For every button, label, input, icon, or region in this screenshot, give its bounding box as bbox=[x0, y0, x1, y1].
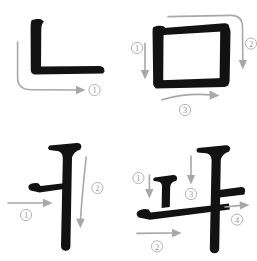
stroke-order-label: 4 bbox=[235, 215, 240, 225]
stroke-order-badge-3-wa: 3 bbox=[185, 188, 196, 199]
glyph-mieum bbox=[153, 23, 231, 88]
stroke-order-chart: Hangul stroke order chart 1 bbox=[0, 0, 257, 261]
stroke-arrow-2-wa bbox=[137, 229, 182, 237]
stroke-order-label: 1 bbox=[92, 85, 96, 95]
stroke-order-badge-1-wa: 1 bbox=[133, 172, 144, 183]
stroke-diagram-wa: 1 2 3 bbox=[129, 131, 257, 261]
stroke-order-badge-1-eo: 1 bbox=[20, 209, 31, 220]
stroke-order-badge-2-wa: 2 bbox=[151, 241, 162, 252]
stroke-arrow-1-eo bbox=[8, 199, 53, 207]
stroke-order-label: 3 bbox=[183, 105, 187, 115]
stroke-order-label: 2 bbox=[95, 183, 99, 193]
stroke-order-label: 2 bbox=[249, 39, 253, 49]
stroke-diagram-eo: 1 2 bbox=[0, 131, 128, 261]
stroke-order-label: 1 bbox=[135, 43, 139, 53]
stroke-arrow-3-wa bbox=[187, 156, 195, 184]
stroke-order-badge-1-mieum: 1 bbox=[131, 42, 142, 53]
stroke-arrow-3-mieum bbox=[162, 90, 220, 99]
stroke-diagram-nieun: 1 bbox=[0, 0, 128, 130]
glyph-eo bbox=[28, 143, 81, 251]
stroke-arrow-2-mieum bbox=[168, 15, 247, 69]
stroke-order-label: 2 bbox=[155, 242, 159, 252]
stroke-arrow-2-eo bbox=[76, 157, 86, 228]
stroke-order-badge-3-mieum: 3 bbox=[179, 104, 190, 115]
glyph-nieun bbox=[31, 19, 105, 74]
stroke-order-label: 1 bbox=[136, 173, 140, 183]
stroke-diagram-mieum: 1 2 3 bbox=[129, 0, 257, 130]
stroke-order-label: 1 bbox=[24, 210, 28, 220]
stroke-order-badge-2-eo: 2 bbox=[92, 182, 103, 193]
stroke-order-badge-2-mieum: 2 bbox=[245, 38, 256, 49]
stroke-arrow-1-wa bbox=[145, 175, 153, 198]
stroke-order-badge-1-nieun: 1 bbox=[89, 84, 100, 95]
stroke-order-badge-4-wa: 4 bbox=[231, 214, 242, 225]
stroke-order-label: 3 bbox=[189, 189, 193, 199]
